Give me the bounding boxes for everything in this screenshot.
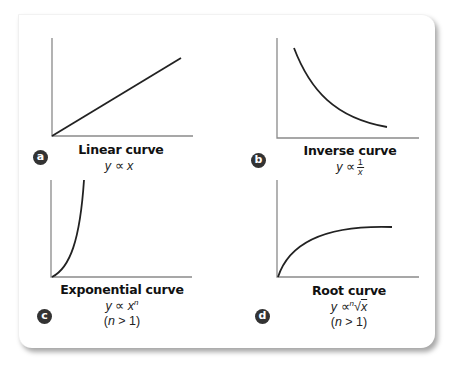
panel-c-graph	[51, 180, 192, 277]
panel-a-badge: a	[33, 150, 48, 165]
fraction-denominator: x	[357, 168, 364, 177]
fraction: 1x	[357, 158, 364, 177]
panel-a-graph	[52, 38, 193, 136]
proportional-symbol: ∝	[115, 159, 124, 173]
panel-a-axes	[52, 38, 193, 136]
panel-a-title: Linear curve	[78, 142, 163, 157]
panel-b-axes	[277, 38, 419, 138]
condition-rest: > 1)	[115, 314, 140, 328]
panel-c-formula: y ∝ xn	[106, 298, 139, 313]
panel-c-badge: c	[37, 309, 52, 324]
panel-b-title: Inverse curve	[303, 143, 396, 158]
panel-d-condition: (n > 1)	[331, 315, 368, 329]
inverse-curve-line	[294, 48, 387, 127]
panel-c-title: Exponential curve	[60, 282, 183, 297]
formula-exponent: n	[134, 298, 138, 307]
panel-c-condition: (n > 1)	[104, 314, 141, 328]
radicand: x	[361, 300, 367, 314]
formula-rhs: x	[127, 159, 133, 173]
panel-c-axes	[51, 180, 192, 277]
panel-d-graph	[277, 180, 419, 277]
formula-lhs: y	[336, 160, 342, 174]
formula-lhs: y	[105, 159, 111, 173]
panel-b-formula: y ∝1x	[336, 158, 364, 177]
panel-d-title: Root curve	[312, 283, 386, 298]
panel-b-badge: b	[251, 153, 266, 168]
proportional-symbol: ∝	[346, 160, 355, 174]
formula-lhs: y	[331, 300, 337, 314]
plots-canvas	[0, 0, 451, 367]
panel-a-formula: y ∝ x	[105, 158, 133, 173]
linear-curve-line	[52, 58, 181, 136]
proportional-symbol: ∝	[115, 299, 124, 313]
formula-lhs: y	[106, 299, 112, 313]
exponential-curve-line	[52, 180, 84, 277]
panel-b-graph	[277, 38, 419, 138]
proportional-symbol: ∝	[341, 300, 350, 314]
panel-d-formula: y ∝n√x	[331, 299, 367, 314]
root-curve-line	[278, 227, 392, 277]
condition-rest: > 1)	[342, 315, 367, 329]
panel-d-badge: d	[255, 309, 270, 324]
